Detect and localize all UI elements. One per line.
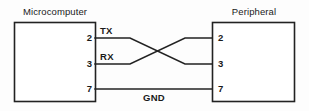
left-pin-3-label: 3 — [87, 58, 92, 69]
peripheral-box — [213, 23, 295, 102]
diagram-canvas: Microcomputer Peripheral 2 3 7 2 3 7 TX … — [0, 0, 309, 111]
gnd-signal-label: GND — [143, 92, 165, 103]
peripheral-title: Peripheral — [232, 6, 276, 17]
left-pin-2-label: 2 — [87, 32, 92, 43]
rs232-null-modem-diagram: Microcomputer Peripheral 2 3 7 2 3 7 TX … — [0, 0, 309, 111]
right-pin-3-label: 3 — [218, 58, 223, 69]
right-pin-7-label: 7 — [218, 83, 223, 94]
right-pin-2-label: 2 — [218, 32, 223, 43]
rx-signal-label: RX — [100, 51, 114, 62]
left-pin-7-label: 7 — [87, 83, 92, 94]
microcomputer-title: Microcomputer — [23, 6, 87, 17]
tx-signal-label: TX — [100, 25, 113, 36]
microcomputer-box — [15, 23, 96, 102]
